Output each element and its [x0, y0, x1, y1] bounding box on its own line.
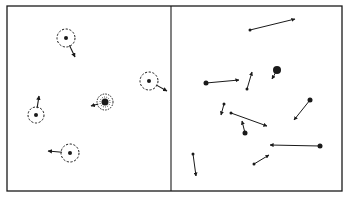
point-particle: [294, 98, 313, 121]
cloud-particle: [48, 144, 79, 162]
point-particle: [246, 72, 253, 91]
velocity-arrow-icon: [231, 113, 267, 126]
particle-dot: [68, 151, 72, 155]
point-particle: [204, 80, 240, 86]
right-panel-point-particles: [192, 19, 323, 176]
point-particle: [221, 103, 226, 116]
point-particle: [230, 112, 268, 127]
particle-dot: [308, 98, 313, 103]
particle-dot: [246, 88, 249, 91]
particle-dot: [230, 112, 233, 115]
outer-frame: [7, 6, 342, 191]
velocity-arrow-icon: [221, 104, 224, 115]
velocity-arrow-icon: [69, 45, 75, 57]
velocity-arrow-icon: [254, 155, 269, 164]
particle-dot: [318, 144, 323, 149]
velocity-arrow-icon: [250, 19, 295, 30]
velocity-arrow-icon: [193, 154, 196, 176]
velocity-arrow-icon: [48, 151, 62, 152]
particle-dot: [102, 99, 109, 106]
point-particle: [272, 66, 281, 79]
particle-dot: [223, 103, 226, 106]
point-particle: [270, 144, 323, 149]
velocity-arrow-icon: [294, 100, 310, 120]
point-particle: [253, 155, 270, 166]
velocity-arrow-icon: [37, 96, 39, 108]
point-particle: [249, 19, 296, 32]
point-particle: [242, 121, 248, 136]
particle-dot: [253, 163, 256, 166]
velocity-arrow-icon: [156, 85, 167, 91]
left-panel-cloud-particles: [28, 29, 167, 162]
particle-comparison-diagram: [0, 0, 350, 197]
particle-dot: [34, 113, 38, 117]
cloud-particle: [28, 96, 44, 123]
point-particle: [192, 153, 197, 177]
diagram-canvas: [0, 0, 350, 197]
particle-dot: [243, 131, 248, 136]
velocity-arrow-icon: [270, 145, 320, 146]
cloud-particle: [140, 72, 167, 91]
particle-dot: [192, 153, 195, 156]
particle-dot: [147, 79, 151, 83]
cloud-particle: [91, 94, 113, 110]
velocity-arrow-icon: [247, 72, 252, 89]
cloud-particle: [57, 29, 75, 57]
particle-dot: [64, 36, 68, 40]
velocity-arrow-icon: [206, 80, 239, 83]
particle-dot: [273, 66, 281, 74]
particle-dot: [249, 29, 252, 32]
particle-dot: [204, 81, 209, 86]
